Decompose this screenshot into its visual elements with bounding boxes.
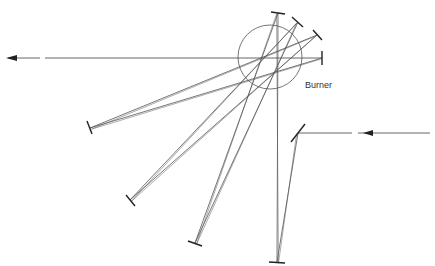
burner-label: Burner	[305, 80, 332, 90]
diagram-canvas	[0, 0, 435, 266]
mirror-bottom-right	[269, 262, 285, 263]
mirror-top-1	[271, 12, 285, 14]
beam-path-return	[92, 14, 321, 263]
beam-path	[90, 13, 322, 262]
beam-gap	[40, 56, 45, 60]
input-arrow-icon	[363, 130, 373, 136]
burner-optics-diagram: Burner	[0, 0, 435, 266]
output-arrow-icon	[6, 55, 17, 61]
mirror-top-2	[292, 17, 303, 27]
mirror-top-3	[313, 30, 322, 40]
mirror-bottom-mid	[188, 241, 202, 246]
beam-gap	[352, 131, 358, 135]
